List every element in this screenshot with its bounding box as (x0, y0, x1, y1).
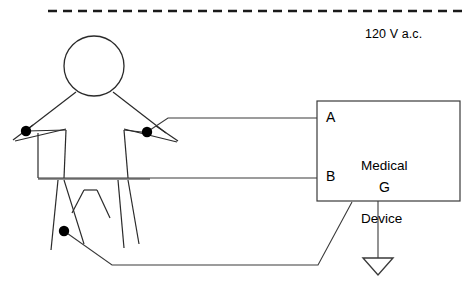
lead-wire-to-terminal-a (147, 118, 317, 132)
patient-head (64, 36, 124, 96)
electrode-leg (59, 226, 69, 236)
patient-crotch-right (97, 190, 110, 218)
patient-torso-right-side (124, 130, 128, 178)
mains-voltage-label: 120 V a.c. (365, 27, 422, 41)
electrode-left-hand (21, 126, 31, 136)
medical-device-label: Medical Device (361, 122, 408, 262)
patient-right-leg-inner (118, 180, 124, 248)
patient-torso-left-side (64, 130, 66, 178)
medical-device-label-line1: Medical (361, 157, 408, 175)
terminal-label-b: B (326, 169, 335, 185)
medical-device-label-line2: Device (361, 210, 408, 228)
electrode-right-hand (142, 127, 152, 137)
patient-left-leg-outer (51, 180, 58, 250)
patient-crotch-left (72, 190, 84, 213)
terminal-label-a: A (326, 110, 335, 126)
patient-right-leg-outer (128, 180, 139, 244)
patient-right-forearm-tip (156, 126, 178, 141)
diagram-canvas: 120 V a.c. A B G Medical Device (0, 0, 473, 288)
